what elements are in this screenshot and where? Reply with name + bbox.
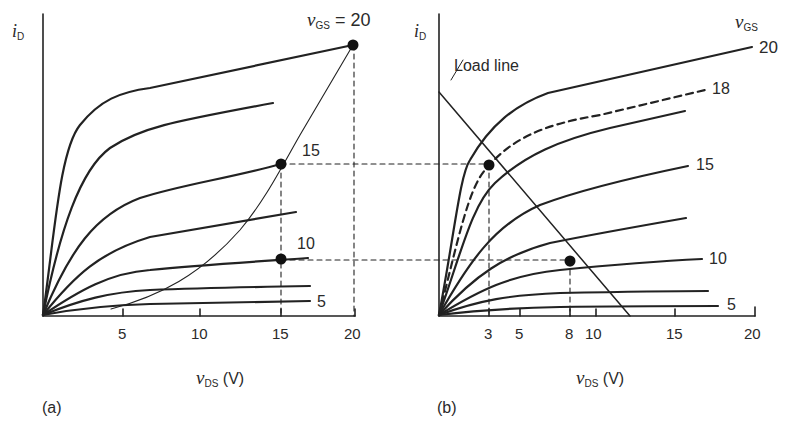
panel-a-curve-label-10: 10 <box>297 236 315 252</box>
panel-a-axes <box>43 14 355 316</box>
panel-b-caption: (b) <box>437 400 457 416</box>
panel-b-x-tick-15: 15 <box>666 326 683 341</box>
panel-b-curve-label-15: 15 <box>696 157 714 173</box>
op-point-a-15 <box>276 159 287 170</box>
panel-a-x-tick-10: 10 <box>191 326 208 341</box>
panel-b-x-tick-5: 5 <box>515 326 523 341</box>
operating-points <box>276 40 576 267</box>
panel-a-x-tick-15: 15 <box>272 326 289 341</box>
panel-b-curve-label-18: 18 <box>712 81 730 97</box>
op-point-b-10 <box>565 256 576 267</box>
op-point-a-20 <box>348 40 359 51</box>
panel-b-x-tick-8: 8 <box>565 326 573 341</box>
panel-b-curve-label-10: 10 <box>709 251 727 267</box>
panel-a-x-axis-label: νDS (V) <box>196 368 244 389</box>
panel-b-vgs-label: νGS <box>735 12 758 33</box>
panel-b-x-tick-3: 3 <box>484 326 492 341</box>
panel-b-curve-label-5: 5 <box>727 297 736 313</box>
panel-a-x-tick-20: 20 <box>344 326 361 341</box>
panel-b-curve-label-20: 20 <box>759 39 778 56</box>
panel-a-caption: (a) <box>42 400 62 416</box>
panel-a-y-axis-label: iD <box>12 22 24 42</box>
op-point-a-10 <box>276 254 287 265</box>
panel-a-x-tick-5: 5 <box>118 326 126 341</box>
characteristics-diagram <box>0 0 790 428</box>
panel-b-load-line-label: Load line <box>454 58 519 74</box>
panel-b-y-axis-label: iD <box>414 22 426 42</box>
op-point-b-18 <box>484 160 495 171</box>
panel-a-curves <box>43 45 353 315</box>
panel-b-x-tick-20: 20 <box>744 326 761 341</box>
panel-a-curve-label-15: 15 <box>302 143 320 159</box>
panel-a-vgs-label: νGS = 20 <box>307 10 370 31</box>
panel-b-x-tick-10: 10 <box>585 326 602 341</box>
panel-a-curve-label-5: 5 <box>317 294 326 310</box>
panel-b-x-axis-label: νDS (V) <box>576 368 624 389</box>
